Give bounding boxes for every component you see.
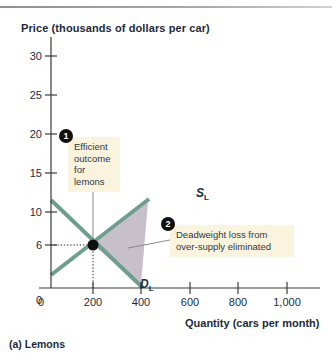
y-tick-label-15: 15 (14, 167, 42, 179)
annotation-badge-1: 1 (59, 129, 73, 143)
y-tick-label-20: 20 (14, 128, 42, 140)
supply-curve-label-text: S (196, 186, 204, 200)
demand-curve-label-sub: L (149, 284, 154, 293)
annotation-1-line-1: Efficient (74, 141, 115, 153)
x-axis-title: Quantity (cars per month) (185, 317, 319, 329)
economics-chart: 30 25 20 15 10 6 0 0 200 400 600 800 1,0… (0, 0, 332, 359)
annotation-2-line-1: Deadweight loss from (176, 229, 289, 241)
x-tick-label-200: 200 (71, 296, 115, 308)
y-tick-label-6: 6 (14, 239, 42, 251)
y-tick-label-25: 25 (14, 89, 42, 101)
demand-curve-label-text: D (140, 277, 149, 291)
x-tick-label-600: 600 (168, 296, 212, 308)
x-tick-label-0: 0 (19, 296, 63, 308)
demand-curve-label: DL (140, 277, 154, 293)
y-tick-label-30: 30 (14, 50, 42, 62)
annotation-1-line-2: outcome (74, 153, 115, 165)
y-tick-label-10: 10 (14, 206, 42, 218)
x-tick-label-800: 800 (216, 296, 260, 308)
x-tick-label-1000: 1,000 (265, 296, 309, 308)
annotation-callout-2: Deadweight loss from over-supply elimina… (170, 225, 294, 257)
annotation-callout-1: Efficient outcome for lemons (68, 137, 120, 192)
annotation-2-line-2: over-supply eliminated (176, 241, 289, 253)
x-tick-label-400: 400 (119, 296, 163, 308)
supply-curve-label-sub: L (204, 193, 209, 202)
figure-caption: (a) Lemons (9, 338, 65, 350)
annotation-1-line-3: for lemons (74, 164, 115, 187)
supply-curve-label: SL (196, 186, 209, 202)
annotation-badge-2: 2 (161, 217, 175, 231)
deadweight-loss-region (93, 202, 148, 284)
equilibrium-point (88, 240, 99, 251)
